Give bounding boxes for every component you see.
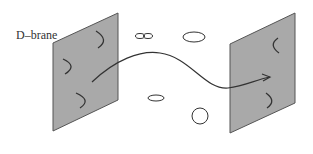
diagram-canvas [0,0,313,154]
closed-string-4 [192,108,208,124]
closed-string-3 [148,95,164,101]
brane-right [230,13,295,133]
d-brane-label: D–brane [16,29,57,41]
closed-string-2 [183,32,205,42]
d-brane-diagram: D–brane [0,0,313,154]
brane-left [53,13,118,131]
